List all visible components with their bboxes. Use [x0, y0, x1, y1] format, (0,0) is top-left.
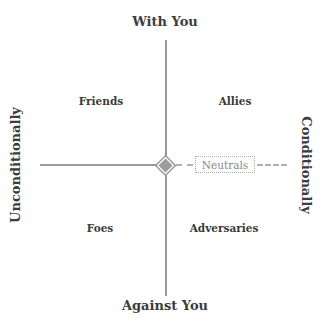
axis-title-top: With You — [132, 14, 198, 29]
dashed-connector-right — [257, 164, 287, 166]
horizontal-axis-line — [40, 164, 160, 166]
center-diamond-icon — [155, 155, 176, 176]
quadrant-label-foes: Foes — [87, 222, 113, 234]
axis-title-left: Unconditionally — [8, 107, 23, 223]
quadrant-label-adversaries: Adversaries — [190, 222, 259, 234]
quadrant-label-allies: Allies — [219, 95, 252, 107]
axis-title-bottom: Against You — [122, 298, 208, 313]
axis-title-right: Conditionally — [299, 116, 314, 213]
quadrant-label-friends: Friends — [79, 95, 123, 107]
neutrals-box: Neutrals — [195, 156, 255, 173]
dashed-connector-left — [176, 164, 193, 166]
